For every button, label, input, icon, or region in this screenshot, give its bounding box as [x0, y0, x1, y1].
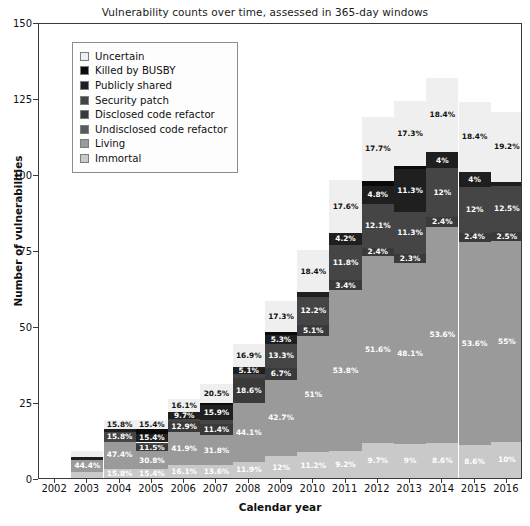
legend-item[interactable]: Disclosed code refactor	[80, 107, 227, 122]
bar-segment[interactable]: 11.3%	[394, 212, 426, 255]
bar-segment[interactable]: 17.7%	[362, 117, 394, 181]
bar-column[interactable]: 8.6%53.6%2.4%12%4%18.4%	[459, 98, 491, 478]
bar-segment[interactable]: 8.6%	[426, 443, 458, 478]
bar-segment[interactable]: 12.5%	[491, 186, 522, 232]
bar-column[interactable]: 44.4%	[71, 451, 103, 478]
bar-segment[interactable]	[168, 419, 200, 422]
bar-segment[interactable]: 30.8%	[136, 451, 168, 469]
bar-segment[interactable]	[71, 472, 103, 478]
bar-segment[interactable]: 4%	[459, 172, 491, 187]
bar-segment[interactable]: 9%	[394, 444, 426, 478]
bar-segment[interactable]: 51.6%	[362, 256, 394, 443]
bar-segment[interactable]: 31.8%	[200, 435, 232, 465]
bar-segment[interactable]: 53.6%	[459, 242, 491, 446]
bar-segment[interactable]: 8.6%	[459, 445, 491, 478]
bar-segment[interactable]: 12%	[265, 456, 297, 478]
bar-segment[interactable]: 3.4%	[329, 280, 361, 290]
bar-segment[interactable]: 16.1%	[168, 399, 200, 412]
bar-column[interactable]: 9.7%51.6%2.4%12.1%4.8%17.7%	[362, 116, 394, 478]
bar-segment[interactable]: 15.4%	[136, 469, 168, 478]
bar-segment[interactable]: 11.5%	[136, 445, 168, 452]
bar-segment[interactable]: 55%	[491, 241, 522, 442]
bar-column[interactable]: 15.8%47.4%15.8%15.8%	[104, 420, 136, 478]
bar-segment[interactable]	[297, 292, 329, 297]
bar-segment[interactable]: 9.2%	[329, 451, 361, 478]
bar-column[interactable]: 9%48.1%2.3%11.3%11.3%17.3%	[394, 101, 426, 478]
bar-segment[interactable]: 9.7%	[362, 443, 394, 478]
bar-column[interactable]: 8.6%53.6%2.4%12%4%18.4%	[426, 74, 458, 478]
bar-segment[interactable]: 53.8%	[329, 290, 361, 450]
bar-segment[interactable]: 17.3%	[265, 301, 297, 332]
bar-segment[interactable]	[265, 332, 297, 334]
bar-segment[interactable]: 53.6%	[426, 227, 458, 444]
bar-segment[interactable]: 11.2%	[297, 452, 329, 478]
bar-segment[interactable]: 17.6%	[329, 180, 361, 232]
bar-segment[interactable]: 15.4%	[136, 420, 168, 429]
bar-segment[interactable]: 2.5%	[491, 232, 522, 241]
bar-segment[interactable]: 4%	[426, 152, 458, 168]
bar-segment[interactable]: 20.5%	[200, 384, 232, 403]
bar-segment[interactable]: 15.4%	[136, 434, 168, 443]
bar-segment[interactable]: 18.6%	[233, 378, 265, 403]
bar-segment[interactable]: 2.4%	[426, 217, 458, 227]
bar-segment[interactable]: 11.9%	[233, 462, 265, 478]
bar-segment[interactable]: 4.2%	[329, 233, 361, 246]
bar-segment[interactable]: 2.4%	[459, 233, 491, 242]
legend-item[interactable]: Security patch	[80, 93, 227, 108]
bar-column[interactable]: 9.2%53.8%3.4%11.8%4.2%17.6%	[329, 180, 361, 478]
bar-segment[interactable]	[200, 420, 232, 424]
bar-segment[interactable]: 42.7%	[265, 380, 297, 457]
bar-segment[interactable]: 13.6%	[200, 465, 232, 478]
bar-column[interactable]: 11.9%44.1%18.6%5.1%16.9%	[233, 344, 265, 478]
bar-segment[interactable]	[136, 429, 168, 433]
bar-segment[interactable]: 9.7%	[168, 412, 200, 420]
bar-segment[interactable]: 12%	[459, 187, 491, 233]
bar-segment[interactable]: 2.3%	[394, 254, 426, 263]
bar-column[interactable]: 10%55%2.5%12.5%19.2%	[491, 113, 522, 478]
bar-segment[interactable]	[233, 374, 265, 379]
bar-segment[interactable]: 2.4%	[362, 248, 394, 257]
legend-item[interactable]: Undisclosed code refactor	[80, 122, 227, 137]
bar-segment[interactable]: 17.3%	[394, 101, 426, 166]
bar-segment[interactable]: 12.1%	[362, 204, 394, 248]
legend-item[interactable]: Immortal	[80, 151, 227, 166]
legend-item[interactable]: Uncertain	[80, 49, 227, 64]
legend-item[interactable]: Killed by BUSBY	[80, 64, 227, 79]
bar-segment[interactable]: 5.1%	[233, 367, 265, 374]
bar-segment[interactable]: 6.7%	[265, 368, 297, 380]
bar-segment[interactable]: 12.9%	[168, 422, 200, 432]
bar-segment[interactable]: 5.3%	[265, 335, 297, 345]
bar-segment[interactable]: 47.4%	[104, 442, 136, 469]
bar-column[interactable]: 15.4%30.8%11.5%15.4%15.4%	[136, 420, 168, 478]
bar-column[interactable]: 16.1%41.9%12.9%9.7%16.1%	[168, 399, 200, 478]
bar-segment[interactable]: 44.4%	[71, 460, 103, 472]
bar-segment[interactable]: 4.8%	[362, 186, 394, 203]
bar-segment[interactable]	[71, 457, 103, 460]
bar-segment[interactable]: 44.1%	[233, 403, 265, 462]
bar-segment[interactable]: 11.4%	[200, 424, 232, 435]
bar-segment[interactable]: 12.2%	[297, 297, 329, 325]
bar-segment[interactable]	[136, 443, 168, 445]
bar-segment[interactable]: 15.8%	[104, 420, 136, 429]
bar-segment[interactable]: 18.4%	[297, 250, 329, 292]
bar-segment[interactable]: 51%	[297, 336, 329, 452]
bar-segment[interactable]: 15.8%	[104, 469, 136, 478]
bar-segment[interactable]	[71, 451, 103, 457]
bar-segment[interactable]: 16.1%	[168, 465, 200, 478]
bar-segment[interactable]	[362, 181, 394, 187]
bar-segment[interactable]	[200, 403, 232, 405]
bar-segment[interactable]: 18.4%	[426, 78, 458, 152]
bar-segment[interactable]: 10%	[491, 442, 522, 478]
bar-segment[interactable]: 5.1%	[297, 325, 329, 337]
bar-column[interactable]: 12%42.7%6.7%13.3%5.3%17.3%	[265, 299, 297, 478]
bar-segment[interactable]: 48.1%	[394, 263, 426, 444]
bar-segment[interactable]: 12%	[426, 168, 458, 217]
bar-segment[interactable]: 11.8%	[329, 245, 361, 280]
legend-item[interactable]: Living	[80, 137, 227, 152]
bar-segment[interactable]: 18.4%	[459, 102, 491, 172]
bar-column[interactable]: 13.6%31.8%11.4%15.9%20.5%	[200, 384, 232, 478]
bar-segment[interactable]	[394, 166, 426, 169]
legend-item[interactable]: Publicly shared	[80, 78, 227, 93]
bar-segment[interactable]: 41.9%	[168, 432, 200, 465]
bar-segment[interactable]: 11.3%	[394, 169, 426, 212]
